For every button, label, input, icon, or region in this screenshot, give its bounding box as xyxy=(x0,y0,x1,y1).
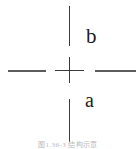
crosshair-vertical-arm xyxy=(69,57,70,83)
centerline-left-segment xyxy=(8,70,46,72)
centerline-top-segment xyxy=(69,6,70,46)
centerline-right-segment xyxy=(95,70,136,72)
label-a: a xyxy=(85,90,94,110)
centerline-bottom-segment xyxy=(69,99,70,142)
figure-container: b a 图1.36-3 结构示意 xyxy=(0,0,136,149)
label-b: b xyxy=(86,26,97,47)
figure-caption: 图1.36-3 结构示意 xyxy=(0,139,136,149)
